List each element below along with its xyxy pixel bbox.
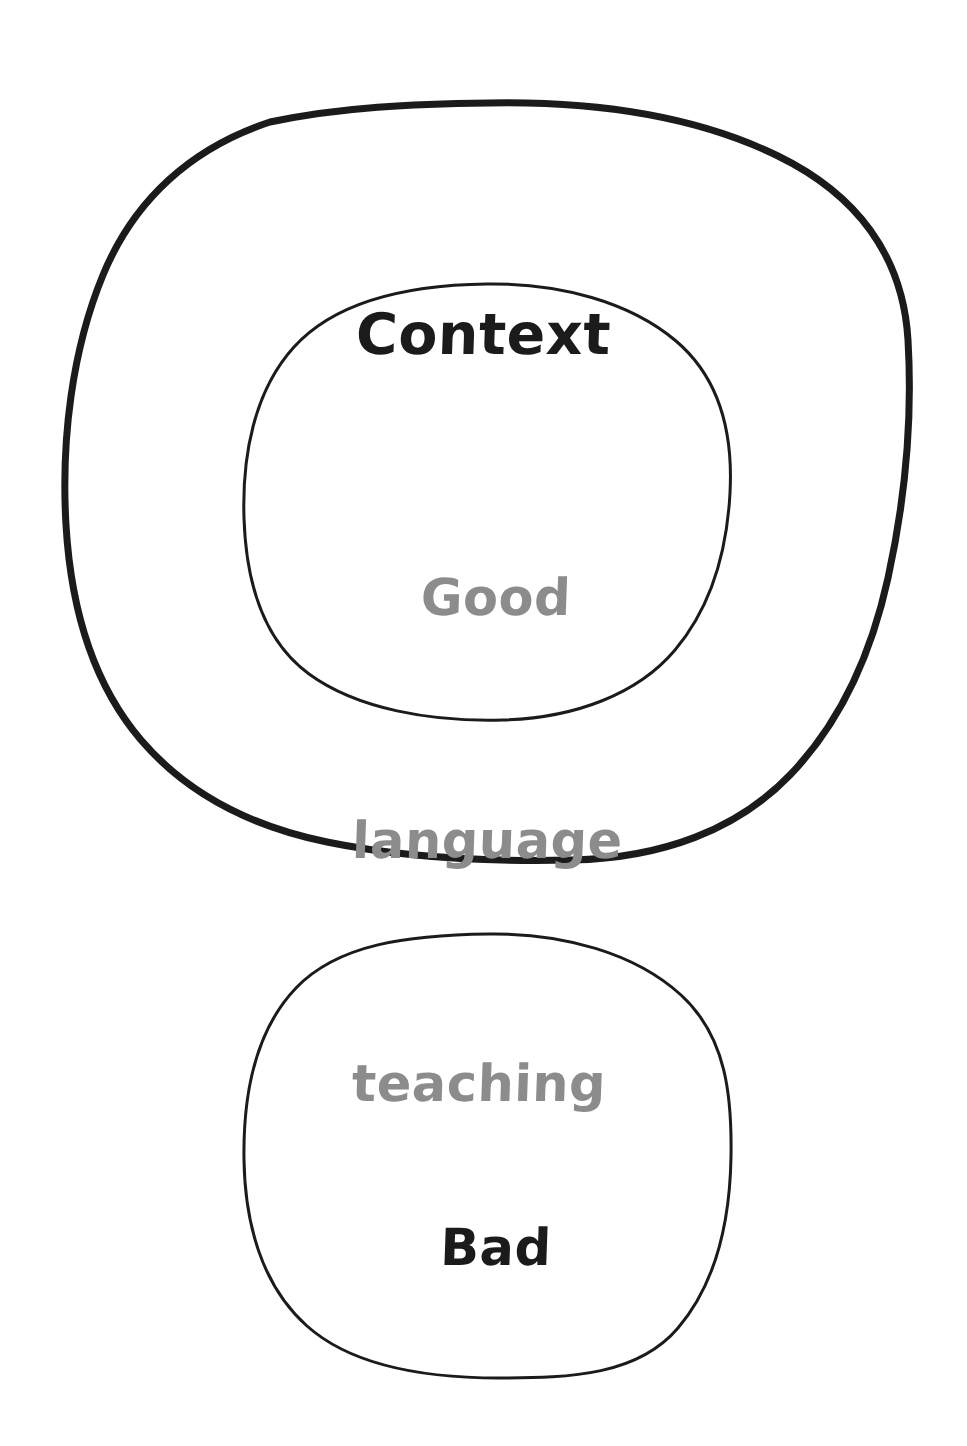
good-label-line-2: language	[242, 800, 734, 881]
diagram-canvas: Context Good language teaching Bad langu…	[0, 0, 967, 1446]
bad-label-line-1: Bad	[250, 1207, 742, 1288]
bad-language-teaching-label: Bad language teaching	[227, 1045, 747, 1446]
context-label-text: Context	[0, 302, 967, 366]
good-label-line-1: Good	[250, 557, 742, 638]
